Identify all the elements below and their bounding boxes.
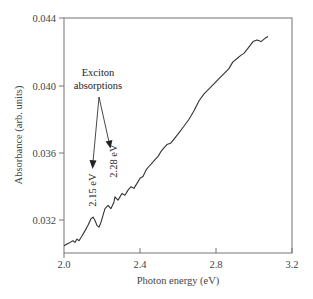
x-tick-label: 3.2 bbox=[285, 259, 298, 270]
annotation-line2: absorptions bbox=[74, 80, 122, 91]
annotation-line1: Exciton bbox=[82, 67, 115, 78]
x-axis-label: Photon energy (eV) bbox=[137, 275, 220, 287]
arrow-head-icon bbox=[90, 160, 97, 169]
y-tick-label: 0.036 bbox=[32, 148, 56, 159]
x-tick-label: 2.4 bbox=[133, 259, 147, 270]
x-tick-label: 2.0 bbox=[57, 259, 70, 270]
x-tick-label: 2.8 bbox=[209, 259, 222, 270]
plot-frame bbox=[64, 18, 292, 253]
absorbance-chart: 0.044 0.040 0.036 0.032 Absorbance (arb.… bbox=[0, 0, 313, 299]
peak-label-2-15: 2.15 eV bbox=[87, 173, 98, 207]
x-axis: 2.0 2.4 2.8 3.2 Photon energy (eV) bbox=[57, 248, 298, 287]
y-tick-label: 0.032 bbox=[32, 215, 56, 226]
arrow-line-2-28 bbox=[99, 97, 109, 142]
y-axis: 0.044 0.040 0.036 0.032 Absorbance (arb.… bbox=[13, 13, 64, 226]
peak-label-2-28: 2.28 eV bbox=[108, 144, 119, 178]
y-tick-label: 0.044 bbox=[32, 13, 56, 24]
exciton-annotation: Exciton absorptions 2.15 eV 2.28 eV bbox=[74, 67, 122, 207]
y-tick-label: 0.040 bbox=[32, 81, 56, 92]
y-axis-label: Absorbance (arb. units) bbox=[13, 85, 25, 184]
arrow-line-2-15 bbox=[93, 97, 99, 162]
